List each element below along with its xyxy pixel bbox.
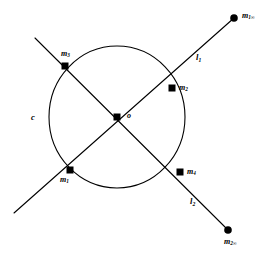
point-marker-o xyxy=(114,114,121,121)
label-point-m2-sub: 2 xyxy=(185,86,188,92)
label-point-m1-infinity-sub: 1∞ xyxy=(248,14,254,20)
label-line-l2-sub: 2 xyxy=(192,201,195,207)
label-point-m2: m2 xyxy=(179,84,188,93)
point-marker-m1 xyxy=(67,167,74,174)
figure-canvas xyxy=(0,0,268,256)
label-point-m1: m1 xyxy=(60,176,69,185)
label-point-m3-sub: 3 xyxy=(67,52,70,58)
point-marker-m2-infinity xyxy=(224,226,232,234)
point-marker-m3 xyxy=(62,63,69,70)
label-point-o-text: o xyxy=(127,111,131,120)
label-line-l1-sub: 1 xyxy=(198,57,201,63)
label-line-l2: l2 xyxy=(190,197,195,207)
figure-background xyxy=(0,0,268,256)
point-marker-m2 xyxy=(169,85,176,92)
label-point-m1-infinity: m1∞ xyxy=(242,12,255,21)
point-marker-m4 xyxy=(177,169,184,176)
label-point-m2-infinity-sub: 2∞ xyxy=(230,240,236,246)
geometry-figure: c o m3 m2 m1 m4 m1∞ m2∞ l1 l2 xyxy=(0,0,268,256)
label-curve-c-text: c xyxy=(31,112,35,122)
label-point-m3: m3 xyxy=(61,50,70,59)
label-point-m1-sub: 1 xyxy=(66,178,69,184)
label-point-m2-infinity: m2∞ xyxy=(224,238,237,247)
point-marker-m1-infinity xyxy=(230,14,238,22)
label-curve-c: c xyxy=(31,113,35,122)
label-point-m4: m4 xyxy=(187,168,196,177)
label-point-o: o xyxy=(127,112,131,120)
label-point-m4-sub: 4 xyxy=(193,170,196,176)
label-line-l1: l1 xyxy=(196,53,201,63)
